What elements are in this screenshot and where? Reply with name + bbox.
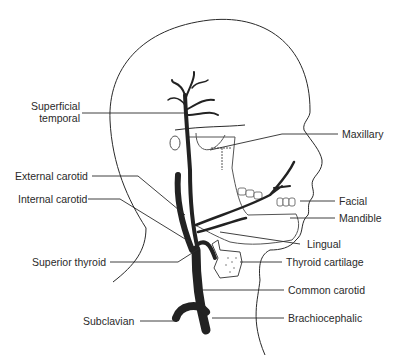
label-superior-thyroid: Superior thyroid [32,256,106,268]
arteries [168,72,294,330]
label-text: Superficial [20,100,80,112]
label-facial: Facial [339,195,367,207]
label-internal-carotid: Internal carotid [18,193,87,205]
label-lingual: Lingual [307,238,341,250]
label-common-carotid: Common carotid [288,284,365,296]
head-outline [110,19,322,355]
label-text: temporal [20,112,80,124]
label-external-carotid: External carotid [15,170,88,182]
label-thyroid-cartilage: Thyroid cartilage [286,256,364,268]
label-superficial-temporal: Superficial temporal [20,100,80,124]
label-subclavian: Subclavian [83,315,134,327]
label-maxillary: Maxillary [342,128,383,140]
label-brachiocephalic: Brachiocephalic [288,312,362,324]
label-mandible: Mandible [339,212,382,224]
